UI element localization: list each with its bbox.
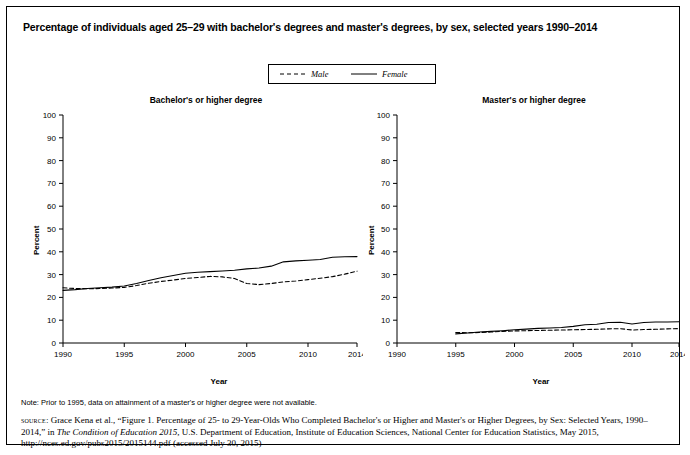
svg-text:2000: 2000 [177, 350, 195, 359]
legend-label-female: Female [382, 69, 408, 79]
legend-dashed-line-icon [280, 71, 306, 77]
chart-panel-masters: Master's or higher degree Percent Year 0… [363, 95, 685, 395]
legend-label-male: Male [311, 69, 328, 79]
svg-text:1995: 1995 [115, 350, 133, 359]
svg-text:2005: 2005 [564, 350, 582, 359]
svg-text:30: 30 [381, 271, 390, 280]
figure-source: source: Grace Kena et al., “Figure 1. Pe… [21, 415, 669, 450]
svg-text:2014: 2014 [348, 350, 363, 359]
svg-text:0: 0 [52, 339, 57, 348]
svg-text:2000: 2000 [506, 350, 524, 359]
chart-title-bachelors: Bachelor's or higher degree [23, 95, 363, 105]
svg-text:2010: 2010 [623, 350, 641, 359]
svg-text:100: 100 [377, 111, 391, 120]
figure-note: Note: Prior to 1995, data on attainment … [21, 398, 661, 408]
svg-text:2010: 2010 [299, 350, 317, 359]
svg-text:40: 40 [47, 248, 56, 257]
svg-text:20: 20 [47, 293, 56, 302]
svg-text:10: 10 [381, 316, 390, 325]
svg-text:0: 0 [386, 339, 391, 348]
svg-text:70: 70 [381, 179, 390, 188]
legend-solid-line-icon [351, 71, 377, 77]
svg-text:90: 90 [47, 134, 56, 143]
chart-legend: Male Female [268, 64, 436, 84]
chart-title-masters: Master's or higher degree [363, 95, 685, 105]
svg-text:50: 50 [381, 225, 390, 234]
plot-area-masters: 0102030405060708090100199019952000200520… [363, 109, 685, 379]
svg-text:40: 40 [381, 248, 390, 257]
svg-text:2014: 2014 [670, 350, 685, 359]
legend-item-male: Male [280, 65, 328, 83]
svg-text:70: 70 [47, 179, 56, 188]
svg-text:90: 90 [381, 134, 390, 143]
figure-frame: Percentage of individuals aged 25–29 wit… [6, 6, 680, 445]
svg-text:1995: 1995 [447, 350, 465, 359]
svg-text:80: 80 [381, 157, 390, 166]
svg-text:1990: 1990 [388, 350, 406, 359]
source-publication-title: The Condition of Education 2015 [57, 427, 178, 437]
svg-text:30: 30 [47, 271, 56, 280]
svg-text:20: 20 [381, 293, 390, 302]
svg-text:60: 60 [47, 202, 56, 211]
svg-text:1990: 1990 [54, 350, 72, 359]
svg-text:2005: 2005 [238, 350, 256, 359]
svg-text:100: 100 [43, 111, 57, 120]
plot-area-bachelors: 0102030405060708090100199019952000200520… [23, 109, 363, 379]
figure-title: Percentage of individuals aged 25–29 wit… [23, 21, 673, 34]
svg-text:60: 60 [381, 202, 390, 211]
svg-text:10: 10 [47, 316, 56, 325]
source-prefix: source [21, 416, 46, 425]
svg-text:80: 80 [47, 157, 56, 166]
legend-item-female: Female [351, 65, 408, 83]
chart-panel-bachelors: Bachelor's or higher degree Percent Year… [23, 95, 363, 395]
svg-text:50: 50 [47, 225, 56, 234]
